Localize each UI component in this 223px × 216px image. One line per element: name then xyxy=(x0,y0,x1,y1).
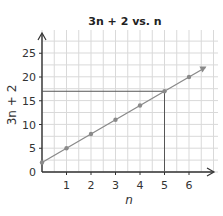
svg-text:15: 15 xyxy=(22,95,36,108)
svg-text:25: 25 xyxy=(22,47,36,60)
svg-text:1: 1 xyxy=(63,179,70,192)
data-point xyxy=(40,160,44,164)
data-point xyxy=(64,146,68,150)
svg-text:20: 20 xyxy=(22,71,36,84)
data-point xyxy=(138,103,142,107)
svg-text:4: 4 xyxy=(137,179,144,192)
svg-text:10: 10 xyxy=(22,119,36,132)
data-point xyxy=(89,132,93,136)
line-chart: 3n + 2 vs. n 1234560510152025 n 3n + 2 xyxy=(0,0,223,216)
svg-text:5: 5 xyxy=(29,142,36,155)
svg-text:2: 2 xyxy=(88,179,95,192)
x-axis-label: n xyxy=(125,193,133,207)
tick-labels: 1234560510152025 xyxy=(22,47,193,192)
axes xyxy=(38,33,214,176)
data-point xyxy=(187,75,191,79)
data-series xyxy=(40,67,207,165)
data-point xyxy=(113,118,117,122)
grid xyxy=(42,30,218,172)
svg-text:3: 3 xyxy=(112,179,119,192)
y-axis-label: 3n + 2 xyxy=(5,85,19,126)
svg-text:6: 6 xyxy=(186,179,193,192)
svg-text:0: 0 xyxy=(29,166,36,179)
data-point xyxy=(162,89,166,93)
svg-text:5: 5 xyxy=(161,179,168,192)
chart-title: 3n + 2 vs. n xyxy=(88,15,161,28)
